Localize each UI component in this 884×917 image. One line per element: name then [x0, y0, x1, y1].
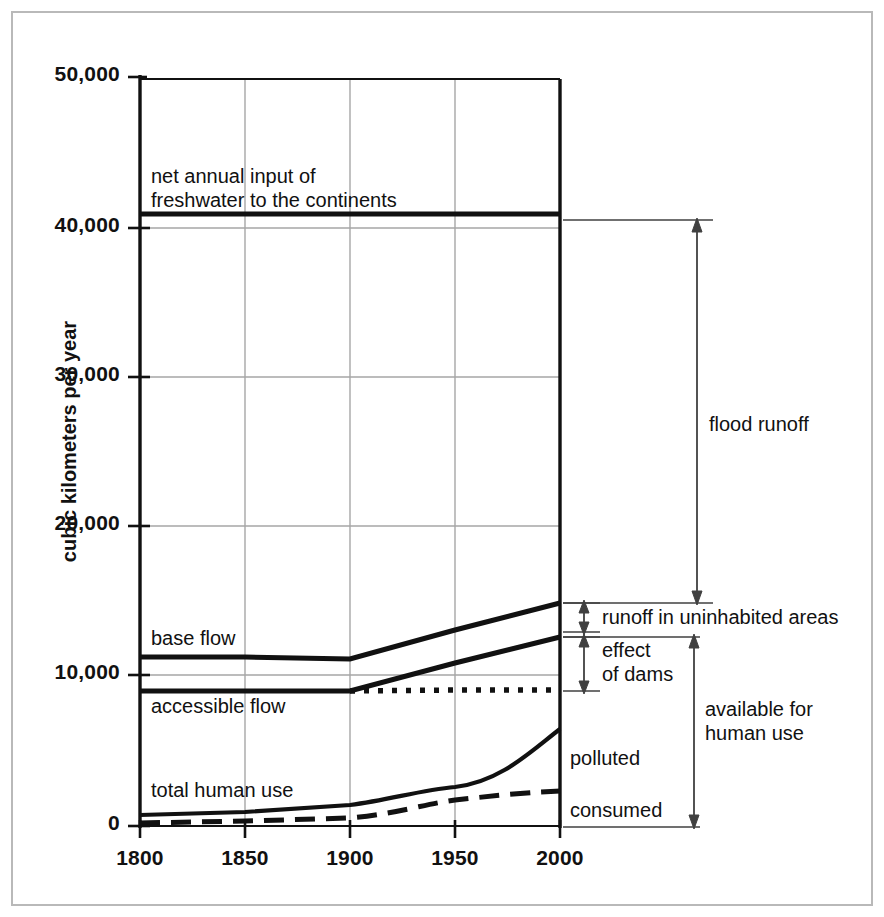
effect-of-dams-arrowhead-down: [579, 681, 589, 694]
annotation-runoff-uninhabited: runoff in uninhabited areas: [602, 605, 838, 629]
label-net-annual-input: net annual input of freshwater to the co…: [151, 164, 397, 213]
y-tick-label-40000: 40,000: [28, 213, 120, 237]
runoff-uninhabited-arrowhead-up: [579, 600, 589, 613]
label-base-flow: base flow: [151, 626, 236, 650]
annotation-polluted: polluted: [570, 746, 640, 770]
effect-of-dams-arrowhead-up: [579, 634, 589, 647]
water-budget-line-chart: [0, 0, 884, 917]
figure-container: 50,000 40,000 30,000 20,000 10,000 0 180…: [0, 0, 884, 917]
available-human-use-arrowhead-up: [689, 634, 699, 648]
bracket-runoff-uninhabited: [563, 600, 600, 635]
x-tick-label-2000: 2000: [527, 846, 593, 870]
label-total-human-use: total human use: [151, 778, 293, 802]
bracket-effect-of-dams: [563, 634, 600, 694]
annotation-available-human-use: available for human use: [705, 697, 813, 746]
y-tick-label-0: 0: [28, 811, 120, 835]
annotation-effect-of-dams: effect of dams: [602, 638, 673, 687]
x-tick-label-1800: 1800: [107, 846, 173, 870]
bracket-flood-runoff: [563, 218, 713, 605]
x-tick-label-1900: 1900: [317, 846, 383, 870]
annotation-consumed: consumed: [570, 798, 662, 822]
label-accessible-flow: accessible flow: [151, 694, 286, 718]
x-tick-label-1950: 1950: [422, 846, 488, 870]
y-tick-label-50000: 50,000: [28, 62, 120, 86]
y-tick-label-10000: 10,000: [28, 660, 120, 684]
x-tick-label-1850: 1850: [212, 846, 278, 870]
annotation-flood-runoff: flood runoff: [709, 412, 809, 436]
y-axis-title: cubic kilometers per year: [58, 312, 81, 572]
